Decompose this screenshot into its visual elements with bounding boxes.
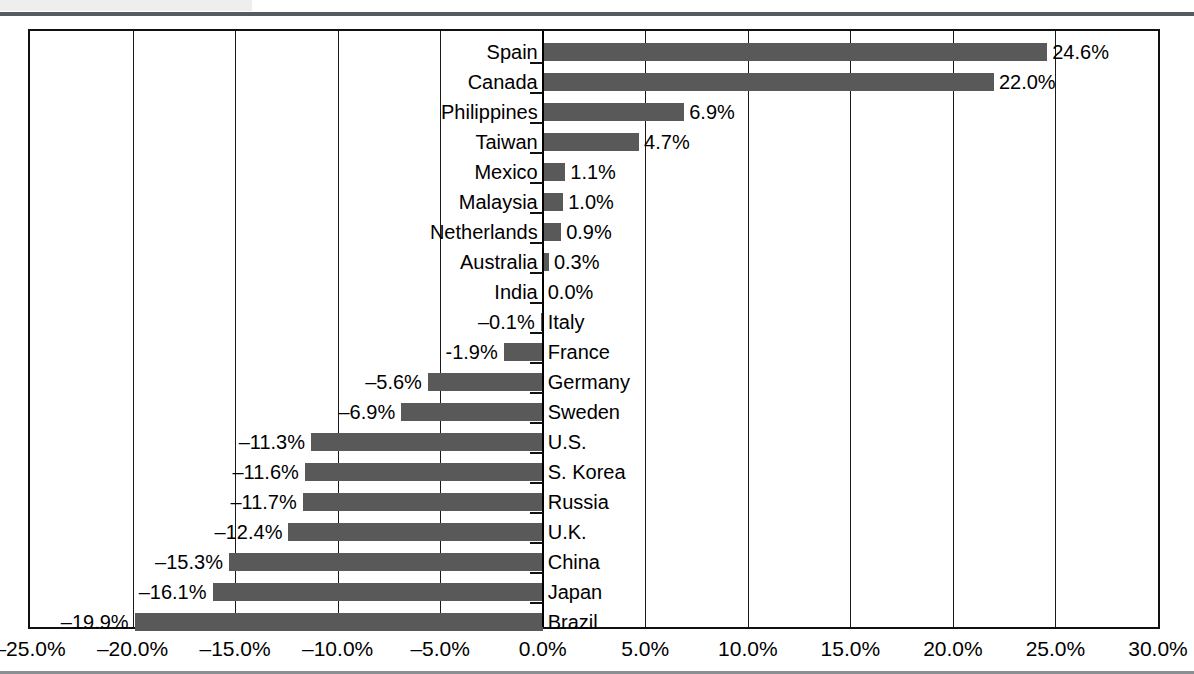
axis-tick-mark — [530, 512, 543, 514]
chart-row: U.K.–12.4% — [30, 517, 1158, 547]
x-tick-label: 25.0% — [1026, 636, 1086, 662]
bar — [305, 463, 543, 481]
bar — [311, 433, 543, 451]
x-tick-label: 20.0% — [923, 636, 983, 662]
bar-chart-figure: Spain24.6%Canada22.0%Philippines6.9%Taiw… — [0, 16, 1194, 673]
axis-tick-mark — [530, 392, 543, 394]
chart-row: France-1.9% — [30, 337, 1158, 367]
header-color-block — [0, 0, 252, 11]
axis-tick-mark — [530, 572, 543, 574]
category-label: Netherlands — [430, 219, 538, 245]
chart-row: Japan–16.1% — [30, 577, 1158, 607]
chart-row: Philippines6.9% — [30, 97, 1158, 127]
value-label: –16.1% — [139, 579, 207, 605]
chart-row: Malaysia1.0% — [30, 187, 1158, 217]
category-label: China — [548, 549, 600, 575]
value-label: –11.3% — [239, 429, 305, 455]
value-label: 0.9% — [566, 219, 612, 245]
axis-tick-mark — [530, 422, 543, 424]
value-label: 0.3% — [554, 249, 600, 275]
axis-tick-mark — [530, 482, 543, 484]
axis-tick-mark — [530, 542, 543, 544]
x-tick-label: –20.0% — [97, 636, 168, 662]
value-label: –19.9% — [61, 609, 129, 635]
bar — [135, 613, 543, 631]
category-label: Australia — [460, 249, 538, 275]
category-label: Japan — [548, 579, 603, 605]
x-tick-label: –5.0% — [410, 636, 470, 662]
chart-row: Netherlands0.9% — [30, 217, 1158, 247]
chart-row: Canada22.0% — [30, 67, 1158, 97]
x-tick-label: 15.0% — [821, 636, 881, 662]
bar — [213, 583, 543, 601]
value-label: –5.6% — [365, 369, 422, 395]
category-label: Germany — [548, 369, 630, 395]
value-label: –15.3% — [155, 549, 223, 575]
bar — [543, 193, 564, 211]
category-label: Canada — [468, 69, 538, 95]
category-label: S. Korea — [548, 459, 626, 485]
category-label: U.K. — [548, 519, 587, 545]
category-label: Russia — [548, 489, 609, 515]
page-header-strip — [0, 0, 1194, 14]
value-label: 1.1% — [570, 159, 616, 185]
category-label: Spain — [487, 39, 538, 65]
chart-row: Sweden–6.9% — [30, 397, 1158, 427]
bar — [401, 403, 543, 421]
x-tick-label: –25.0% — [0, 636, 66, 662]
value-label: -1.9% — [446, 339, 498, 365]
bar — [229, 553, 543, 571]
value-label: 1.0% — [568, 189, 614, 215]
bar — [543, 163, 566, 181]
category-label: Sweden — [548, 399, 620, 425]
x-tick-label: –10.0% — [302, 636, 373, 662]
category-label: Italy — [548, 309, 585, 335]
bar — [543, 43, 1048, 61]
chart-row: S. Korea–11.6% — [30, 457, 1158, 487]
category-label: Brazil — [548, 609, 598, 635]
category-label: Mexico — [474, 159, 537, 185]
category-label: Malaysia — [459, 189, 538, 215]
value-label: 22.0% — [999, 69, 1056, 95]
axis-tick-mark — [530, 602, 543, 604]
x-tick-label: –15.0% — [199, 636, 270, 662]
chart-row: Italy–0.1% — [30, 307, 1158, 337]
chart-row: India0.0% — [30, 277, 1158, 307]
chart-row: U.S.–11.3% — [30, 427, 1158, 457]
value-label: 6.9% — [689, 99, 735, 125]
x-tick-label: 30.0% — [1128, 636, 1188, 662]
bar — [303, 493, 543, 511]
x-tick-label: 5.0% — [621, 636, 669, 662]
chart-row: Spain24.6% — [30, 37, 1158, 67]
plot-area: Spain24.6%Canada22.0%Philippines6.9%Taiw… — [28, 29, 1160, 629]
category-label: U.S. — [548, 429, 587, 455]
bar — [543, 103, 685, 121]
chart-row: Mexico1.1% — [30, 157, 1158, 187]
chart-row: Brazil–19.9% — [30, 607, 1158, 637]
value-label: –6.9% — [339, 399, 396, 425]
category-label: India — [494, 279, 537, 305]
bar — [543, 73, 994, 91]
chart-row: Russia–11.7% — [30, 487, 1158, 517]
axis-tick-mark — [530, 362, 543, 364]
x-tick-label: 10.0% — [718, 636, 778, 662]
value-label: –11.7% — [230, 489, 296, 515]
bar — [428, 373, 543, 391]
value-label: –12.4% — [215, 519, 283, 545]
value-label: –0.1% — [478, 309, 535, 335]
value-label: 24.6% — [1052, 39, 1109, 65]
value-label: –11.6% — [232, 459, 298, 485]
axis-tick-mark — [530, 452, 543, 454]
zero-axis-line — [542, 31, 544, 627]
category-label: Philippines — [441, 99, 538, 125]
bar — [504, 343, 543, 361]
bar — [543, 133, 639, 151]
chart-row: Germany–5.6% — [30, 367, 1158, 397]
bar — [543, 223, 561, 241]
value-label: 4.7% — [644, 129, 690, 155]
x-tick-label: 0.0% — [519, 636, 567, 662]
chart-row: Australia0.3% — [30, 247, 1158, 277]
bar — [288, 523, 542, 541]
category-label: France — [548, 339, 610, 365]
value-label: 0.0% — [548, 279, 594, 305]
